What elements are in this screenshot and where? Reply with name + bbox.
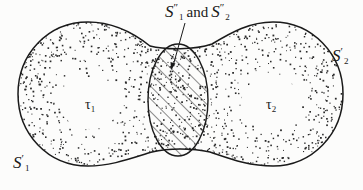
- s2-prime: ′: [341, 45, 343, 57]
- tau2-subscript: 2: [272, 104, 277, 114]
- s1-subscript: 1: [25, 163, 30, 173]
- tau1-subscript: 1: [91, 104, 96, 114]
- diagram-canvas: [0, 0, 363, 190]
- overlap-s1-subscript: 1: [179, 12, 184, 22]
- label-tau1: τ1: [85, 96, 95, 112]
- overlapping-regions-diagram: S″1andS″2 S′1 S′2 τ1 τ2: [0, 0, 363, 190]
- overlap-s2-subscript: 2: [225, 12, 230, 22]
- tau1-symbol: τ: [85, 97, 91, 112]
- tau2-symbol: τ: [266, 97, 272, 112]
- overlap-s2-symbol: S: [211, 2, 220, 21]
- overlap-s2-prime: ″: [220, 1, 225, 13]
- label-overlap: S″1andS″2: [165, 3, 230, 20]
- s2-subscript: 2: [344, 56, 349, 66]
- label-s1-outer: S′1: [13, 154, 29, 171]
- label-s2-outer: S′2: [332, 47, 348, 64]
- s2-symbol: S: [332, 46, 341, 65]
- overlap-conjunction: and: [187, 4, 209, 20]
- overlap-region-hatched: [148, 44, 208, 156]
- overlap-s1-prime: ″: [174, 1, 179, 13]
- s1-prime: ′: [22, 152, 24, 164]
- overlap-s1-symbol: S: [165, 2, 174, 21]
- s1-symbol: S: [13, 153, 22, 172]
- label-tau2: τ2: [266, 96, 276, 112]
